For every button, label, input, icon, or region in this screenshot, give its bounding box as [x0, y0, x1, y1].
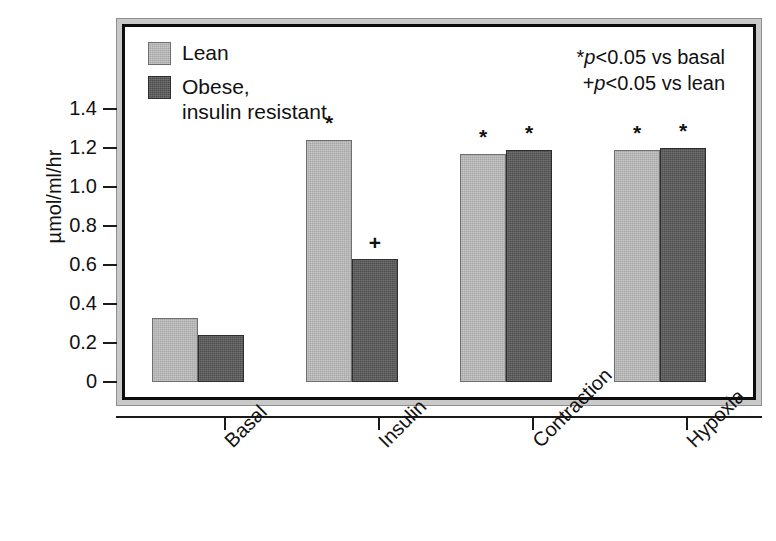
statistics-note: *p<0.05 vs basal +p<0.05 vs lean: [577, 44, 725, 96]
significance-mark-hypoxia-lean: *: [625, 122, 649, 143]
bar-contraction-obese: [506, 150, 552, 382]
legend-label-obese-line1: Obese,: [182, 75, 250, 98]
legend-label-obese: Obese, insulin resistant: [182, 74, 327, 124]
significance-mark-insulin-obese: +: [363, 232, 387, 253]
bar-basal-lean: [152, 318, 198, 382]
bar-basal-obese: [198, 335, 244, 382]
y-tick-label: 0.8: [69, 215, 97, 235]
y-tick-label: 0.6: [69, 254, 97, 274]
significance-mark-hypoxia-obese: *: [671, 120, 695, 141]
significance-mark-contraction-obese: *: [517, 122, 541, 143]
bar-chart-figure: 1.4 1.2 1.0 0.8 0.6 0.4 0.2 0 µmol/ml/hr…: [0, 0, 776, 541]
significance-mark-contraction-lean: *: [471, 126, 495, 147]
y-tick-label: 1.0: [69, 176, 97, 196]
bar-insulin-lean: [306, 140, 352, 382]
plot-area: * + * * * * Lean Obese, in: [125, 27, 753, 397]
x-tick-label-basal: Basal: [220, 401, 272, 453]
legend-item-obese: Obese, insulin resistant: [148, 74, 327, 124]
statistics-note-line-2: +p<0.05 vs lean: [577, 70, 725, 96]
y-tick-label: 0: [86, 371, 97, 391]
legend-swatch-lean-icon: [148, 42, 171, 65]
x-axis-line: [116, 416, 762, 418]
y-tick-label: 1.4: [69, 98, 97, 118]
bar-hypoxia-lean: [614, 150, 660, 382]
legend-label-obese-line2: insulin resistant: [182, 99, 327, 124]
y-tick-label: 0.2: [69, 332, 97, 352]
legend-swatch-obese-icon: [148, 76, 171, 99]
y-tick-label: 0.4: [69, 293, 97, 313]
legend-label-lean: Lean: [182, 40, 229, 65]
bar-contraction-lean: [460, 154, 506, 382]
legend-item-lean: Lean: [148, 40, 327, 65]
y-tick-label: 1.2: [69, 137, 97, 157]
statistics-note-line-1: *p<0.05 vs basal: [577, 44, 725, 70]
y-axis-title: µmol/ml/hr: [43, 97, 66, 297]
legend: Lean Obese, insulin resistant: [148, 40, 327, 124]
bar-insulin-obese: [352, 259, 398, 382]
bar-hypoxia-obese: [660, 148, 706, 382]
